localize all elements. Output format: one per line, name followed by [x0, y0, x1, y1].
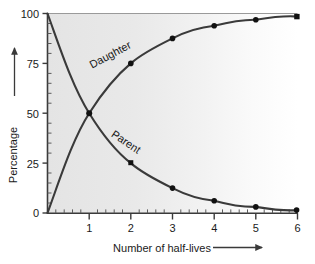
y-axis-title: Percentage: [7, 127, 19, 183]
decay-curve-figure: 100 75 50 25 0 1 2 3 4 5 6 Percentage Nu…: [0, 0, 315, 264]
x-axis-major-ticks: [89, 213, 297, 219]
data-point-parent-3: [170, 185, 176, 191]
x-axis-title: Number of half-lives: [113, 242, 211, 254]
data-point-daughter-2: [128, 61, 134, 67]
y-tick-label-50: 50: [27, 108, 39, 120]
data-point-parent-4: [211, 198, 217, 204]
chart-canvas: 100 75 50 25 0 1 2 3 4 5 6 Percentage Nu…: [0, 0, 315, 264]
data-point-daughter-6: [294, 14, 299, 19]
data-point-parent-5: [253, 204, 259, 210]
data-point-daughter-3: [170, 36, 176, 42]
data-point-daughter-5: [253, 17, 259, 23]
data-point-daughter-4: [211, 23, 217, 29]
x-tick-label-1: 1: [86, 222, 92, 234]
x-tick-label-3: 3: [169, 222, 175, 234]
y-tick-label-100: 100: [21, 8, 39, 20]
y-tick-label-0: 0: [33, 207, 39, 219]
data-point-crossing: [86, 110, 92, 116]
y-tick-label-75: 75: [27, 58, 39, 70]
y-tick-label-25: 25: [27, 158, 39, 170]
data-point-parent-6: [294, 207, 300, 213]
plot-background: [48, 14, 298, 214]
x-tick-label-4: 4: [211, 222, 217, 234]
x-tick-label-5: 5: [253, 222, 259, 234]
x-tick-label-2: 2: [128, 222, 134, 234]
data-point-parent-2: [128, 160, 133, 165]
x-tick-label-6: 6: [294, 222, 300, 234]
